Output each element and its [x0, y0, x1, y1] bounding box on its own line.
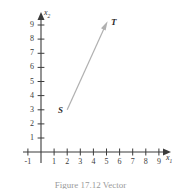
y-axis — [38, 12, 45, 163]
y-tick-label-2: 2 — [22, 120, 34, 128]
x-tick-label-5: 5 — [101, 158, 113, 166]
y-tick-label-5: 5 — [22, 78, 34, 86]
x-tick-label-7: 7 — [127, 158, 139, 166]
vector-figure: -1 1 2 3 4 5 6 7 8 9 1 2 3 4 5 6 7 8 9 x… — [0, 0, 181, 189]
x-tick-label-9: 9 — [153, 158, 165, 166]
x-axis — [23, 148, 171, 155]
y-tick-label-9: 9 — [22, 21, 34, 29]
x-tick-label-6: 6 — [114, 158, 126, 166]
point-label-t: T — [111, 18, 117, 27]
x-tick-label-4: 4 — [87, 158, 99, 166]
y-tick-label-8: 8 — [22, 35, 34, 43]
y-axis-label-sub: 2 — [48, 13, 51, 19]
x-axis-label-sub: 1 — [170, 158, 173, 164]
y-tick-label-4: 4 — [22, 92, 34, 100]
y-tick-label-6: 6 — [22, 63, 34, 71]
point-label-s: S — [58, 106, 63, 115]
x-axis-label: x1 — [166, 154, 172, 164]
y-tick-label-1: 1 — [22, 134, 34, 142]
y-tick-label-3: 3 — [22, 106, 34, 114]
figure-caption: Figure 17.12 Vector — [0, 180, 181, 189]
y-tick-label-7: 7 — [22, 49, 34, 57]
x-tick-label-8: 8 — [140, 158, 152, 166]
x-tick-label--1: -1 — [22, 158, 34, 166]
x-tick-label-3: 3 — [74, 158, 86, 166]
vector-arrow-st — [67, 21, 107, 110]
y-axis-label: x2 — [44, 9, 50, 19]
x-tick-label-2: 2 — [61, 158, 73, 166]
x-tick-label-1: 1 — [48, 158, 60, 166]
